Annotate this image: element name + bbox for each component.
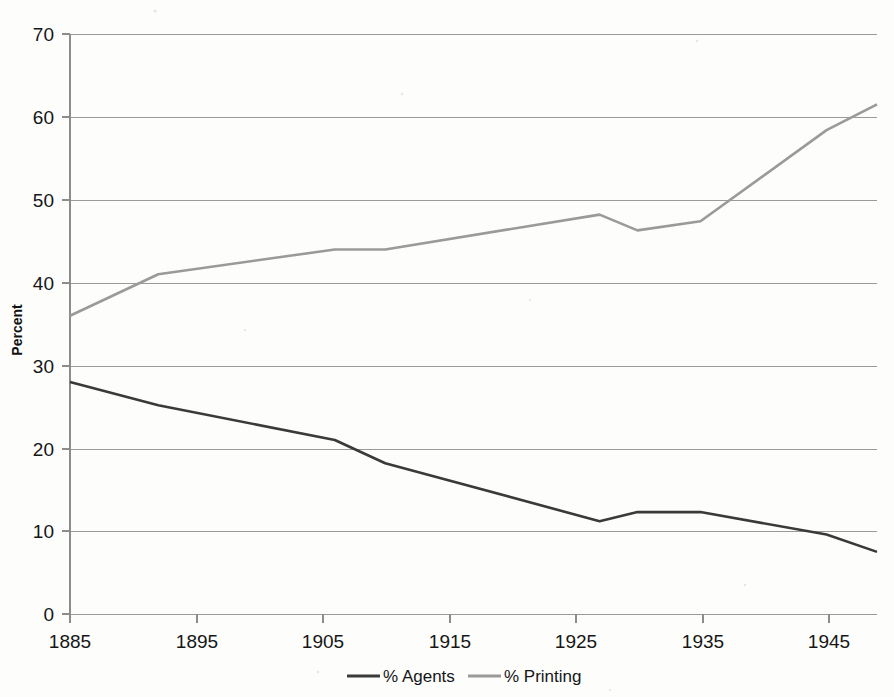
- y-tick-label-70: 70: [33, 24, 54, 45]
- x-tick-label-1915: 1915: [429, 631, 471, 652]
- x-tick-label-1945: 1945: [808, 631, 850, 652]
- legend-label-printing: % Printing: [504, 667, 581, 686]
- chart-container: 70 60 50 40 30 20 10 0 Percent 1885 1895…: [0, 0, 894, 697]
- y-tick-label-20: 20: [33, 439, 54, 460]
- y-tick-label-40: 40: [33, 273, 54, 294]
- y-tick-label-10: 10: [33, 521, 54, 542]
- y-axis-title: Percent: [9, 304, 25, 356]
- y-tick-label-60: 60: [33, 107, 54, 128]
- series-line-printing: [70, 104, 877, 315]
- y-axis-ticks: [62, 34, 70, 614]
- y-tick-label-0: 0: [43, 604, 54, 625]
- paper-texture: [153, 9, 746, 691]
- x-tick-label-1935: 1935: [682, 631, 724, 652]
- x-tick-label-1925: 1925: [555, 631, 597, 652]
- legend-label-agents: % Agents: [383, 667, 455, 686]
- x-tick-label-1905: 1905: [302, 631, 344, 652]
- x-axis-ticks: [70, 614, 829, 623]
- y-tick-label-30: 30: [33, 356, 54, 377]
- series-line-agents: [70, 382, 877, 552]
- chart-legend: % Agents % Printing: [347, 667, 581, 686]
- line-chart: 70 60 50 40 30 20 10 0 Percent 1885 1895…: [0, 0, 894, 697]
- x-tick-label-1885: 1885: [49, 631, 91, 652]
- x-tick-label-1895: 1895: [176, 631, 218, 652]
- y-tick-label-50: 50: [33, 190, 54, 211]
- gridlines: [70, 34, 877, 614]
